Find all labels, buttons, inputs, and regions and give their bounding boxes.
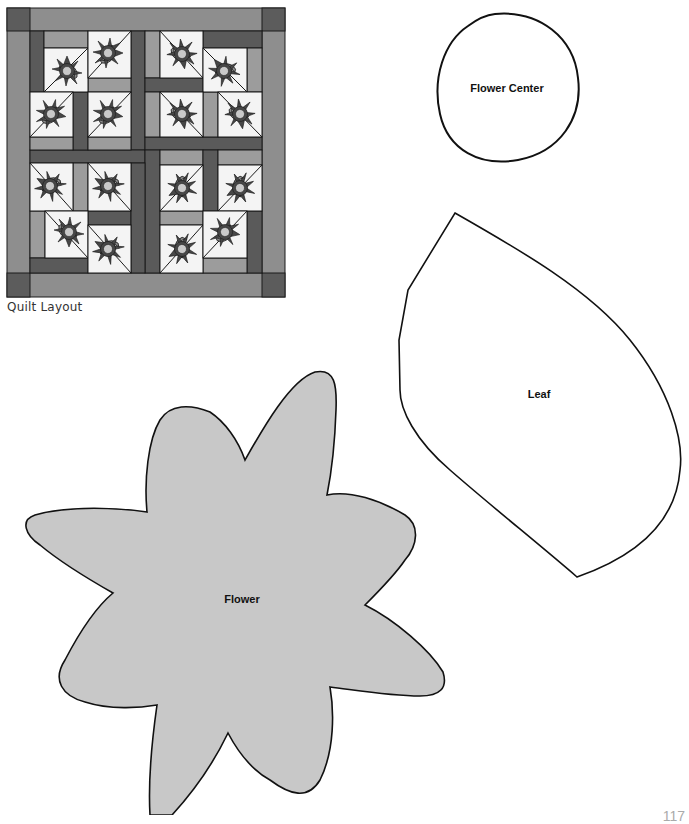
flower-label: Flower bbox=[224, 593, 260, 605]
quilt-block bbox=[203, 211, 247, 258]
flower-template: Flower bbox=[26, 371, 445, 815]
quilt-block bbox=[45, 211, 88, 258]
quilt-block bbox=[160, 31, 203, 78]
quilt-block bbox=[88, 31, 131, 78]
quilt-block bbox=[160, 225, 203, 273]
quilt-block bbox=[160, 92, 203, 137]
leaf-label: Leaf bbox=[528, 388, 551, 400]
quilt-block bbox=[30, 163, 73, 211]
quilt-block bbox=[44, 48, 88, 92]
quilt-block bbox=[218, 165, 262, 211]
flower-center-template: Flower Center bbox=[438, 14, 579, 162]
quilt-block bbox=[203, 48, 247, 92]
flower-center-label: Flower Center bbox=[470, 82, 544, 94]
quilt-block bbox=[160, 165, 203, 211]
page-number: 117 bbox=[663, 808, 685, 824]
leaf-template: Leaf bbox=[399, 213, 681, 577]
quilt-block bbox=[88, 163, 131, 211]
quilt-layout-illustration bbox=[0, 0, 300, 300]
quilt-block bbox=[218, 92, 262, 137]
quilt-block bbox=[88, 92, 131, 137]
quilt-block bbox=[30, 92, 73, 137]
quilt-block bbox=[88, 225, 131, 273]
quilt-layout-caption: Quilt Layout bbox=[7, 300, 82, 314]
